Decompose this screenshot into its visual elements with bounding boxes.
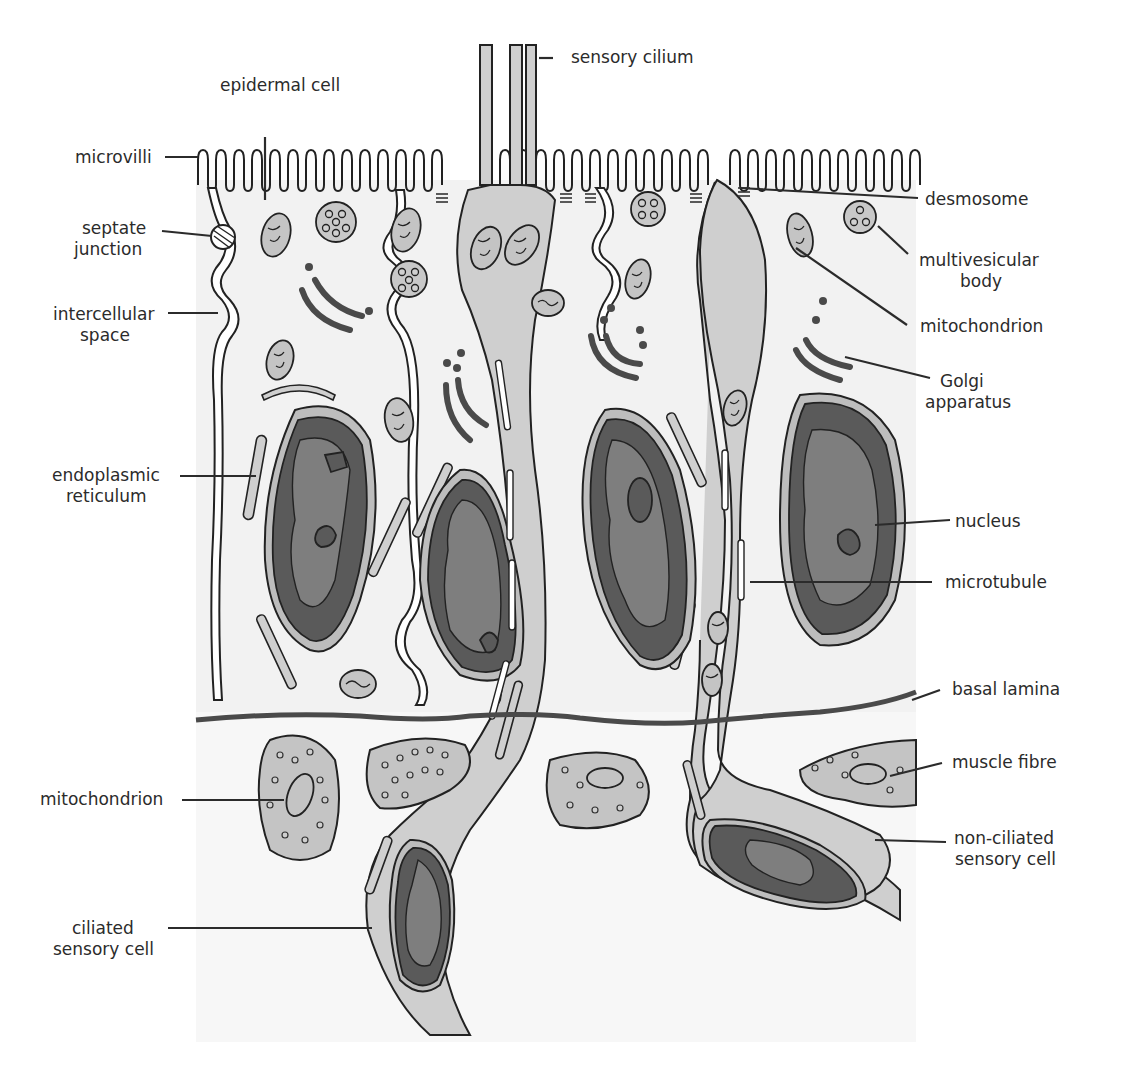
label-ciliated-sensory-cell-1: ciliated bbox=[72, 918, 134, 938]
epidermis-diagram: epidermal cell microvilli septate juncti… bbox=[0, 0, 1122, 1078]
label-muscle-fibre: muscle fibre bbox=[952, 752, 1057, 772]
label-intercellular-space-1: intercellular bbox=[53, 304, 154, 324]
septate-junction bbox=[211, 225, 235, 249]
sensory-cilia bbox=[480, 45, 536, 185]
label-septate-junction-1: septate bbox=[82, 218, 146, 238]
label-endoplasmic-reticulum-1: endoplasmic bbox=[52, 465, 160, 485]
label-mitochondrion-left: mitochondrion bbox=[40, 789, 163, 809]
label-intercellular-space-2: space bbox=[80, 325, 130, 345]
label-septate-junction-2: junction bbox=[73, 239, 142, 259]
label-ciliated-sensory-cell-2: sensory cell bbox=[53, 939, 154, 959]
label-mitochondrion-right: mitochondrion bbox=[920, 316, 1043, 336]
label-sensory-cilium: sensory cilium bbox=[571, 47, 694, 67]
label-desmosome: desmosome bbox=[925, 189, 1028, 209]
label-golgi-apparatus-1: Golgi bbox=[940, 371, 984, 391]
label-golgi-apparatus-2: apparatus bbox=[925, 392, 1011, 412]
label-epidermal-cell: epidermal cell bbox=[220, 75, 340, 95]
label-nucleus: nucleus bbox=[955, 511, 1021, 531]
label-microvilli: microvilli bbox=[75, 147, 152, 167]
label-multivesicular-body-2: body bbox=[960, 271, 1002, 291]
label-non-ciliated-sensory-cell-1: non-ciliated bbox=[954, 828, 1054, 848]
label-multivesicular-body-1: multivesicular bbox=[919, 250, 1039, 270]
label-endoplasmic-reticulum-2: reticulum bbox=[66, 486, 147, 506]
label-non-ciliated-sensory-cell-2: sensory cell bbox=[955, 849, 1056, 869]
label-basal-lamina: basal lamina bbox=[952, 679, 1060, 699]
label-microtubule: microtubule bbox=[945, 572, 1047, 592]
